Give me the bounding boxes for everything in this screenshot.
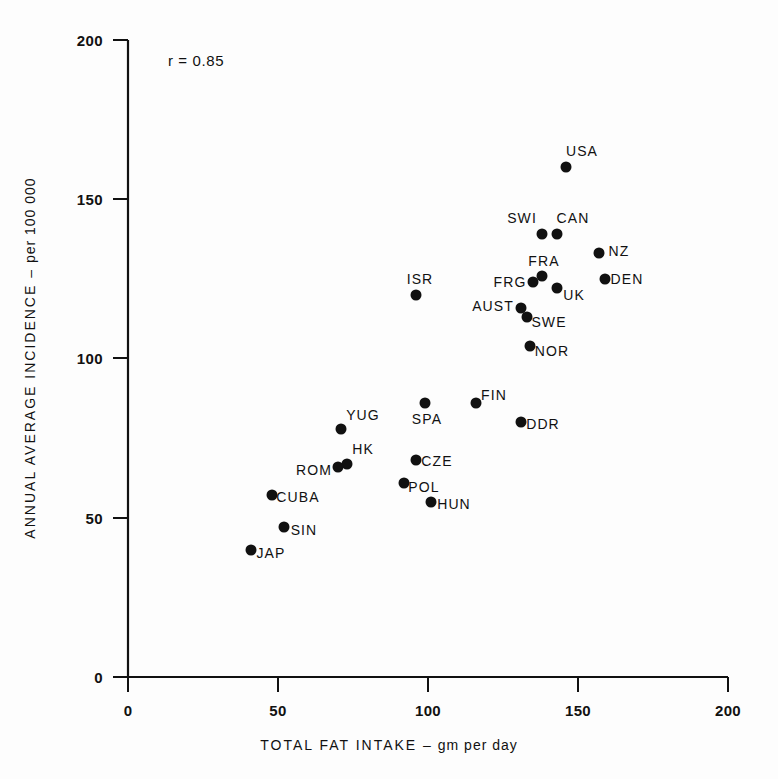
y-axis-dash: –: [22, 269, 38, 278]
data-point-yug: [336, 423, 347, 434]
x-tick-label-200: 200: [715, 702, 741, 719]
data-point-ddr: [516, 417, 527, 428]
data-point-label-hun: HUN: [437, 496, 471, 512]
data-point-label-hk: HK: [352, 441, 374, 457]
y-axis-unit: per 100 000: [22, 177, 38, 263]
data-point-usa: [561, 162, 572, 173]
data-point-label-uk: UK: [563, 287, 585, 303]
data-point-label-usa: USA: [566, 143, 598, 159]
data-point-label-ddr: DDR: [526, 416, 560, 432]
data-point-label-fra: FRA: [528, 253, 559, 269]
data-point-spa: [420, 398, 431, 409]
data-point-label-aust: AUST: [472, 298, 514, 314]
y-tick-label-150: 150: [58, 191, 103, 208]
data-point-fin: [471, 398, 482, 409]
data-point-frg: [528, 277, 539, 288]
data-point-can: [552, 229, 563, 240]
data-point-label-nz: NZ: [609, 243, 630, 259]
data-point-label-spa: SPA: [412, 411, 442, 427]
x-tick-label-50: 50: [269, 702, 287, 719]
data-point-label-yug: YUG: [346, 407, 380, 423]
data-point-label-swe: SWE: [531, 314, 566, 330]
data-point-label-rom: ROM: [296, 462, 332, 478]
scatter-plot-figure: 200 150 100 50 0 0 50 100 150 200 TOTAL …: [0, 0, 778, 779]
x-axis-dash: –: [423, 737, 432, 753]
data-point-sin: [279, 522, 290, 533]
data-point-label-frg: FRG: [494, 274, 527, 290]
x-axis-unit: gm per day: [438, 737, 518, 753]
data-point-nz: [594, 248, 605, 259]
data-point-hun: [426, 496, 437, 507]
y-axis-title-text: ANNUAL AVERAGE INCIDENCE: [22, 284, 38, 539]
x-tick-label-150: 150: [565, 702, 591, 719]
data-point-swi: [537, 229, 548, 240]
y-axis-title: ANNUAL AVERAGE INCIDENCE – per 100 000: [22, 177, 38, 538]
y-tick-label-200: 200: [58, 32, 103, 49]
data-point-rom: [333, 461, 344, 472]
data-point-label-cze: CZE: [421, 453, 452, 469]
x-tick-label-100: 100: [415, 702, 441, 719]
x-axis-title-text: TOTAL FAT INTAKE: [260, 737, 417, 753]
data-point-uk: [552, 283, 563, 294]
y-tick-label-100: 100: [58, 350, 103, 367]
data-point-isr: [411, 289, 422, 300]
data-point-jap: [246, 544, 257, 555]
plot-axes-svg: [0, 0, 778, 779]
data-point-label-isr: ISR: [407, 271, 434, 287]
correlation-annotation: r = 0.85: [168, 52, 224, 69]
x-axis-title: TOTAL FAT INTAKE – gm per day: [260, 737, 518, 753]
data-point-label-jap: JAP: [257, 545, 286, 561]
y-tick-label-50: 50: [58, 510, 103, 527]
data-point-label-fin: FIN: [481, 387, 507, 403]
data-point-label-nor: NOR: [535, 343, 569, 359]
data-point-label-swi: SWI: [507, 210, 537, 226]
data-point-label-can: CAN: [557, 210, 590, 226]
y-tick-label-0: 0: [58, 669, 103, 686]
data-point-den: [600, 273, 611, 284]
data-point-label-pol: POL: [408, 479, 439, 495]
data-point-label-cuba: CUBA: [276, 489, 319, 505]
data-point-label-den: DEN: [611, 271, 644, 287]
x-tick-label-0: 0: [124, 702, 133, 719]
data-point-cze: [411, 455, 422, 466]
data-point-label-sin: SIN: [291, 522, 318, 538]
